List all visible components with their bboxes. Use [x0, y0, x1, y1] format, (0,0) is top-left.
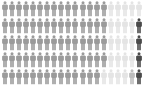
person-icon — [51, 1, 58, 18]
person-icon — [29, 35, 36, 52]
person-icon — [29, 52, 36, 69]
person-icon — [79, 35, 86, 52]
person-icon — [8, 69, 15, 86]
person-icon — [136, 18, 143, 35]
person-icon — [58, 1, 65, 18]
person-icon — [129, 35, 136, 52]
person-icon — [51, 69, 58, 86]
person-icon — [1, 1, 8, 18]
person-icon — [93, 69, 100, 86]
person-icon — [100, 1, 107, 18]
person-icon — [129, 69, 136, 86]
person-icon — [58, 69, 65, 86]
person-icon — [107, 18, 114, 35]
person-icon — [107, 1, 114, 18]
person-icon — [72, 1, 79, 18]
person-icon — [29, 18, 36, 35]
icon-row — [1, 52, 143, 69]
person-icon — [136, 69, 143, 86]
icon-row — [1, 18, 143, 35]
person-icon — [100, 18, 107, 35]
person-icon — [36, 35, 43, 52]
person-icon — [122, 1, 129, 18]
person-icon — [100, 35, 107, 52]
person-icon — [58, 35, 65, 52]
person-icon — [22, 35, 29, 52]
person-icon — [51, 35, 58, 52]
person-icon — [36, 69, 43, 86]
icon-row — [1, 35, 143, 52]
person-icon — [79, 52, 86, 69]
person-icon — [1, 35, 8, 52]
person-icon — [72, 18, 79, 35]
person-icon — [86, 35, 93, 52]
person-icon — [122, 35, 129, 52]
person-icon — [136, 1, 143, 18]
person-icon — [100, 52, 107, 69]
person-icon — [44, 69, 51, 86]
person-icon — [15, 52, 22, 69]
person-icon — [8, 1, 15, 18]
person-icon — [22, 69, 29, 86]
person-icon — [86, 18, 93, 35]
person-icon — [1, 52, 8, 69]
person-icon — [22, 18, 29, 35]
person-icon — [93, 35, 100, 52]
person-icon — [72, 69, 79, 86]
person-icon — [65, 1, 72, 18]
person-icon — [1, 18, 8, 35]
person-icon — [51, 18, 58, 35]
person-icon — [72, 52, 79, 69]
person-icon — [107, 35, 114, 52]
person-icon — [136, 35, 143, 52]
person-icon — [115, 35, 122, 52]
person-icon — [15, 69, 22, 86]
person-icon — [86, 1, 93, 18]
person-icon — [115, 69, 122, 86]
person-icon — [93, 52, 100, 69]
person-icon — [65, 52, 72, 69]
person-icon — [22, 1, 29, 18]
person-icon — [44, 1, 51, 18]
person-icon — [122, 18, 129, 35]
person-icon — [72, 35, 79, 52]
person-icon — [15, 35, 22, 52]
person-icon — [107, 69, 114, 86]
person-icon — [122, 69, 129, 86]
person-icon — [44, 18, 51, 35]
person-icon — [79, 18, 86, 35]
person-icon — [8, 18, 15, 35]
person-icon — [100, 69, 107, 86]
person-icon — [8, 52, 15, 69]
person-icon — [136, 52, 143, 69]
person-icon — [129, 52, 136, 69]
person-icon — [44, 52, 51, 69]
person-icon — [107, 52, 114, 69]
person-icon — [36, 52, 43, 69]
person-icon — [86, 69, 93, 86]
person-icon — [65, 18, 72, 35]
person-icon — [115, 18, 122, 35]
person-icon — [122, 52, 129, 69]
icon-row — [1, 1, 143, 18]
person-icon — [22, 52, 29, 69]
person-icon — [29, 1, 36, 18]
person-icon — [36, 1, 43, 18]
icon-array-chart — [1, 1, 143, 86]
person-icon — [115, 52, 122, 69]
person-icon — [65, 35, 72, 52]
person-icon — [115, 1, 122, 18]
person-icon — [44, 35, 51, 52]
person-icon — [58, 52, 65, 69]
person-icon — [15, 1, 22, 18]
person-icon — [93, 18, 100, 35]
person-icon — [86, 52, 93, 69]
person-icon — [79, 69, 86, 86]
person-icon — [93, 1, 100, 18]
person-icon — [51, 52, 58, 69]
person-icon — [129, 1, 136, 18]
person-icon — [79, 1, 86, 18]
person-icon — [58, 18, 65, 35]
person-icon — [129, 18, 136, 35]
icon-row — [1, 69, 143, 86]
